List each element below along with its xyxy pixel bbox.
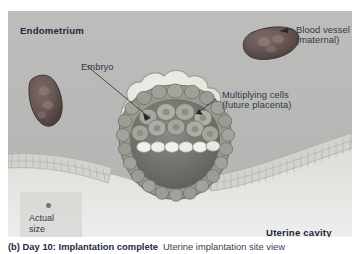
actual-size-dot [46,203,51,208]
figure-caption-bold: (b) Day 10: Implantation complete [8,241,158,252]
actual-size-line2: size [29,224,54,235]
label-endometrium: Endometrium [20,26,84,37]
label-multiplying-cells-line2: (future placenta) [222,100,291,110]
actual-size-label: Actual size [29,213,54,236]
actual-size-inset: Actual size [20,192,82,237]
implantation-figure: Endometrium Uterine cavity Blood vessel … [0,0,360,254]
label-multiplying-cells-line1: Multiplying cells [222,90,289,100]
label-uterine-cavity: Uterine cavity [266,228,332,237]
label-blood-vessel: Blood vessel (maternal) [296,25,350,46]
label-multiplying-cells: Multiplying cells (future placenta) [222,90,291,111]
figure-caption-rest: Uterine implantation site view [163,241,285,252]
label-blood-vessel-line2: (maternal) [296,35,350,45]
actual-size-line1: Actual [29,213,54,223]
figure-caption: (b) Day 10: Implantation completeUterine… [8,241,352,254]
label-blood-vessel-line1: Blood vessel [296,25,350,35]
illustration-panel: Endometrium Uterine cavity Blood vessel … [8,11,352,237]
label-embryo: Embryo [81,62,114,72]
